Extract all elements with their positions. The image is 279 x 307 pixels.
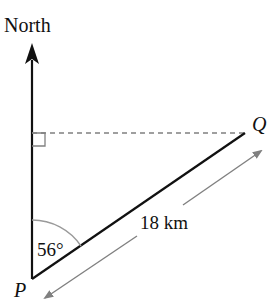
- pq-line: [32, 133, 245, 279]
- distance-arrow-up-icon: [183, 151, 261, 205]
- north-label: North: [4, 14, 51, 36]
- bearing-diagram: North 56° 18 km Q P: [0, 0, 279, 307]
- point-q-label: Q: [252, 113, 267, 135]
- right-angle-icon: [32, 133, 45, 146]
- angle-label: 56°: [37, 239, 64, 260]
- distance-label: 18 km: [140, 212, 188, 233]
- point-p-label: P: [13, 279, 26, 301]
